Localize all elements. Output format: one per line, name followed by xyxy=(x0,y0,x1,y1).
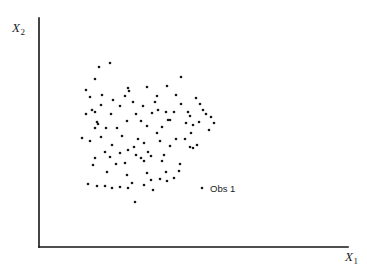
scatter-point xyxy=(109,156,112,159)
axis-lines xyxy=(39,18,348,247)
y-axis-label-base: X xyxy=(12,20,20,35)
scatter-point xyxy=(126,174,129,177)
scatter-point xyxy=(196,144,199,147)
annotation-markers xyxy=(201,187,204,190)
scatter-point xyxy=(91,109,94,112)
obs-1-marker xyxy=(201,187,204,190)
scatter-point xyxy=(119,152,122,155)
scatter-point xyxy=(165,171,168,174)
scatter-point xyxy=(163,154,166,157)
scatter-point xyxy=(166,180,169,183)
scatter-point xyxy=(190,132,193,135)
scatter-point xyxy=(159,140,162,143)
scatter-point xyxy=(140,157,143,160)
scatter-point xyxy=(169,145,172,148)
scatter-plot-figure: X2 X1 Obs 1 xyxy=(0,0,367,276)
scatter-point xyxy=(187,111,190,114)
scatter-point xyxy=(202,109,205,112)
scatter-point xyxy=(89,96,92,99)
scatter-point xyxy=(132,101,135,104)
scatter-point xyxy=(213,122,216,125)
x-axis-label-subscript: 1 xyxy=(353,256,358,266)
scatter-point xyxy=(94,78,97,81)
scatter-point xyxy=(151,112,154,115)
scatter-point xyxy=(135,154,138,157)
x-axis-label-base: X xyxy=(345,249,353,264)
scatter-point xyxy=(134,201,137,204)
scatter-point xyxy=(180,103,183,106)
scatter-point xyxy=(119,186,122,189)
scatter-point xyxy=(100,136,103,139)
scatter-point xyxy=(210,116,213,119)
scatter-point xyxy=(133,146,136,149)
scatter-point xyxy=(127,87,130,90)
scatter-point xyxy=(106,171,109,174)
scatter-point xyxy=(131,182,134,185)
plot-canvas xyxy=(0,0,367,276)
scatter-point xyxy=(104,185,107,188)
scatter-point xyxy=(173,111,176,114)
scatter-point xyxy=(178,170,181,173)
scatter-point xyxy=(159,178,162,181)
scatter-point xyxy=(81,137,84,140)
scatter-point xyxy=(111,187,114,190)
scatter-point xyxy=(157,109,160,112)
scatter-point xyxy=(104,151,107,154)
scatter-point xyxy=(143,184,146,187)
scatter-point xyxy=(199,103,202,106)
scatter-point xyxy=(146,125,149,128)
scatter-point xyxy=(161,126,164,129)
y-axis-label-subscript: 2 xyxy=(20,27,25,37)
scatter-point xyxy=(111,144,114,147)
scatter-point xyxy=(140,120,143,123)
scatter-point xyxy=(175,94,178,97)
scatter-point xyxy=(198,121,201,124)
scatter-point xyxy=(152,189,155,192)
scatter-point xyxy=(109,62,112,65)
scatter-point xyxy=(92,164,95,167)
scatter-point xyxy=(179,163,182,166)
scatter-point xyxy=(100,104,103,107)
obs-1-annotation-label: Obs 1 xyxy=(210,184,235,194)
x-axis-label: X1 xyxy=(345,250,358,266)
scatter-point xyxy=(161,160,164,163)
scatter-point xyxy=(180,76,183,79)
scatter-point xyxy=(173,177,176,180)
scatter-point xyxy=(124,95,127,98)
scatter-point xyxy=(189,115,192,118)
scatter-point xyxy=(126,120,129,123)
scatter-point xyxy=(192,147,195,150)
scatter-point xyxy=(143,160,146,163)
scatter-point xyxy=(184,138,187,141)
scatter-point xyxy=(192,124,195,127)
scatter-point xyxy=(127,149,130,152)
scatter-point xyxy=(143,142,146,145)
scatter-point xyxy=(166,85,169,88)
scatter-point xyxy=(94,157,97,160)
scatter-point xyxy=(110,113,113,116)
scatter-point xyxy=(185,122,188,125)
scatter-point xyxy=(87,183,90,186)
scatter-point xyxy=(154,101,157,104)
data-points xyxy=(81,62,216,204)
scatter-point xyxy=(142,105,145,108)
scatter-point xyxy=(195,97,198,100)
scatter-point xyxy=(115,163,118,166)
scatter-point xyxy=(205,113,208,116)
scatter-point xyxy=(208,129,211,132)
scatter-point xyxy=(127,187,130,190)
y-axis-label: X2 xyxy=(12,21,25,37)
scatter-point xyxy=(98,66,101,69)
scatter-point xyxy=(156,95,159,98)
scatter-point xyxy=(89,140,92,143)
scatter-point xyxy=(146,172,149,175)
scatter-point xyxy=(169,119,172,122)
scatter-point xyxy=(146,86,149,89)
scatter-point xyxy=(85,113,88,116)
scatter-point xyxy=(121,135,124,138)
scatter-point xyxy=(124,162,127,165)
scatter-point xyxy=(189,146,192,149)
scatter-point xyxy=(94,127,97,130)
scatter-point xyxy=(105,127,108,130)
scatter-point xyxy=(135,113,138,116)
